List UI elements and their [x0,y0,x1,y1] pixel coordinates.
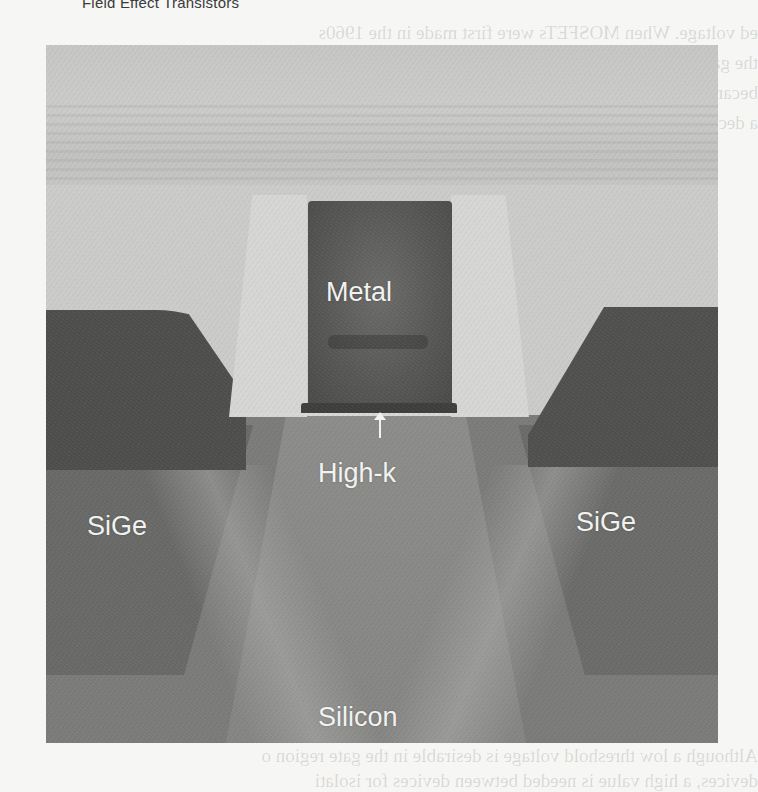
label-silicon: Silicon [318,702,398,733]
bleed-line: devices, a high value is needed between … [0,770,758,792]
grain-texture [46,45,718,743]
tem-micrograph: Metal High-k SiGe SiGe Silicon [46,45,718,743]
label-metal: Metal [326,277,392,308]
label-sige-right: SiGe [576,507,636,538]
bleed-line: Although a low threshold voltage is desi… [0,745,758,767]
arrow-up-icon [379,416,381,438]
running-header: Field Effect Transistors [82,0,239,11]
label-sige-left: SiGe [87,511,147,542]
label-high-k: High-k [318,458,396,489]
bleed-line: ed voltage. When MOSFETs were first made… [0,22,758,44]
